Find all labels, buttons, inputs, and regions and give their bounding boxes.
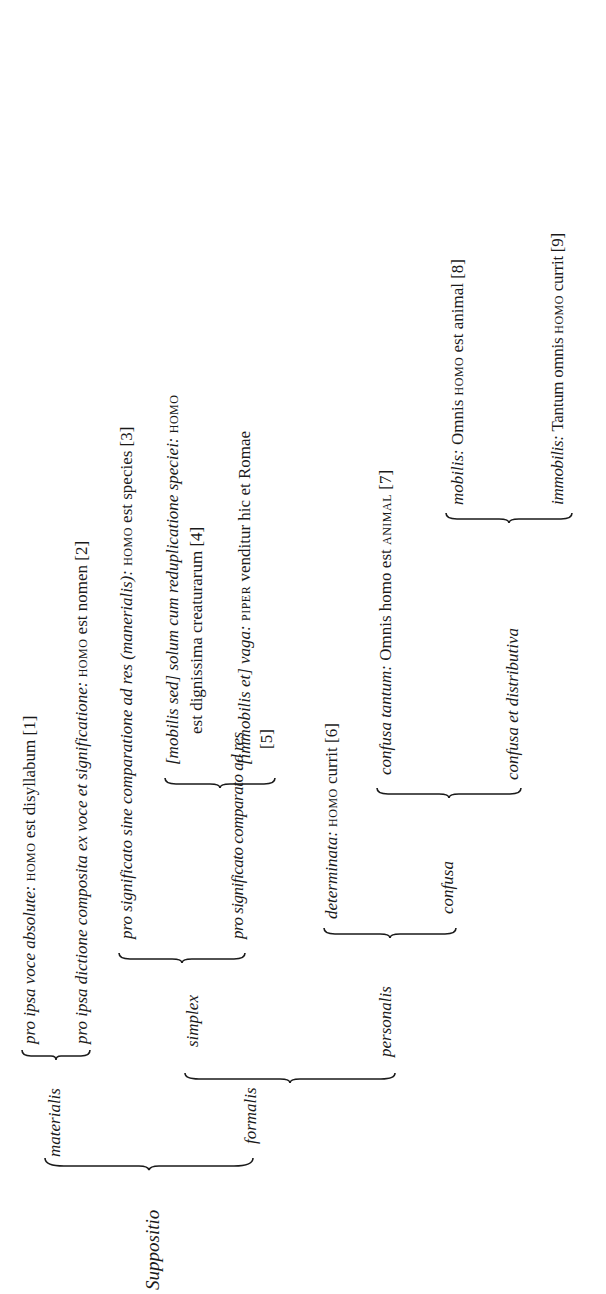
item-label: mobilis: [448, 449, 467, 505]
comparato-immobilis: [immobilis et] vaga: piper venditur hic … [235, 431, 255, 765]
ref-number: [4] [187, 527, 206, 547]
term-homo: homo [117, 527, 136, 566]
example-text: Omnis [448, 400, 467, 445]
materialis-label: materialis [45, 1088, 65, 1157]
materialis-brace [21, 1048, 91, 1060]
item-label: confusa tantum: [376, 665, 395, 775]
ref-number: [8] [448, 259, 467, 279]
item-label: pro significato sine comparatione ad res [117, 664, 136, 939]
item-label: [immobilis et] vaga: [235, 625, 254, 765]
item-label: pro ipsa dictione composita ex voce et s… [72, 682, 91, 1044]
example-text: Omnis homo est [376, 549, 395, 660]
simplex-sine: pro significato sine comparatione ad res… [117, 427, 137, 939]
term-homo: homo [163, 395, 182, 434]
ref-number: [7] [376, 470, 395, 490]
example-text: Tantum omnis [548, 338, 567, 432]
simplex-brace [118, 951, 246, 963]
personalis-determinata: determinata: homo currit [6] [322, 723, 342, 919]
formalis-label: formalis [241, 1087, 261, 1144]
personalis-label: personalis [376, 986, 396, 1057]
comparato-brace [164, 776, 276, 788]
simplex-label: simplex [183, 995, 203, 1047]
ref-number: [5] [257, 729, 277, 749]
example-text: est dignissima creaturarum [187, 551, 206, 734]
root-label: Suppositio [143, 1210, 163, 1290]
term-piper: piper [235, 586, 254, 621]
ref-number: [3] [117, 427, 136, 447]
confusa-brace [376, 786, 522, 798]
confusa-distributiva-label: confusa et distributiva [503, 628, 523, 780]
term-homo: homo [322, 788, 341, 827]
term-animal: animal [376, 494, 395, 545]
term-homo: homo [20, 843, 39, 882]
distributiva-mobilis: mobilis: Omnis homo est animal [8] [448, 259, 468, 505]
example-text: currit [322, 747, 341, 784]
example-text: currit [548, 256, 567, 291]
item-label: determinata: [322, 831, 341, 919]
ref-number: [6] [322, 723, 341, 743]
materialis-item-2: pro ipsa dictione composita ex voce et s… [72, 541, 92, 1044]
item-label: pro ipsa voce absolute: [20, 886, 39, 1044]
paren-label: (manerialis): [117, 570, 136, 660]
ref-number: [9] [548, 233, 567, 252]
example-text: est species [117, 451, 136, 523]
distributiva-brace [445, 511, 573, 523]
formalis-brace [184, 1071, 396, 1083]
term-homo: homo [448, 357, 467, 396]
comparato-mobilis-line2: est dignissima creaturarum [4] [187, 527, 207, 734]
example-text: venditur hic et Romae [235, 431, 254, 582]
root-brace [44, 1156, 254, 1170]
item-label: [mobilis sed] solum cum reduplicatione s… [163, 437, 182, 765]
materialis-item-1: pro ipsa voce absolute: homo est disylla… [20, 716, 40, 1044]
ref-number: [2] [72, 541, 91, 561]
example-text: est disyllabum [20, 740, 39, 839]
comparato-mobilis-line1: [mobilis sed] solum cum reduplicatione s… [163, 395, 183, 765]
confusa-tantum: confusa tantum: Omnis homo est animal [7… [376, 470, 396, 775]
item-label: immobilis: [548, 435, 567, 505]
term-homo: homo [548, 295, 567, 334]
suppositio-diagram: Suppositio materialis pro ipsa voce abso… [0, 0, 606, 1294]
ref-number: [1] [20, 716, 39, 736]
example-text: est nomen [72, 565, 91, 634]
distributiva-immobilis: immobilis: Tantum omnis homo currit [9] [548, 233, 568, 505]
term-homo: homo [72, 639, 91, 678]
example-text: est animal [448, 283, 467, 352]
personalis-brace [323, 926, 457, 938]
confusa-label: confusa [438, 861, 458, 914]
